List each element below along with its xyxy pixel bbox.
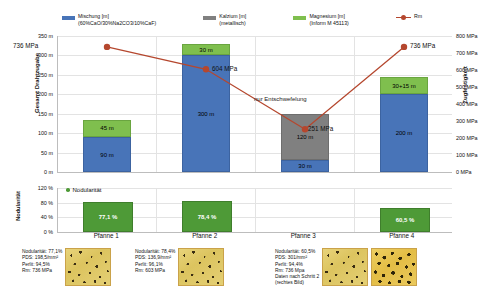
- nodularity-bar-pfanne-4: 60,5 %: [380, 208, 430, 232]
- wire-addition-chart: Gesamt Drahtzugabe Zugfestigkeit 350 m 3…: [0, 36, 500, 183]
- tick-0mpa: 0 MPa: [456, 169, 472, 175]
- category-axis: Pfanne 1 Pfanne 2 Pfanne 3 Pfanne 4: [57, 232, 451, 242]
- legend-item-rm: Rm: [396, 13, 422, 21]
- rm-label-pfanne-2: 604 MPa: [212, 65, 237, 72]
- tick-800mpa: 800 MPa: [456, 33, 478, 39]
- panel1-line-4: Rm: 736 MPa: [22, 268, 62, 274]
- panel-pfanne-4: Nodularität: 60,5% PDS: 301/mm² Perlit: …: [275, 248, 417, 304]
- rm-line-series: [58, 36, 452, 172]
- red-line-marker-icon: [396, 14, 411, 21]
- micrograph-image-pfanne-4-left: [322, 248, 368, 286]
- primary-axis-ticks: 350 m 300 m 250 m 200 m 150 m 100 m 50 m…: [14, 36, 56, 183]
- legend-label-rm: Rm: [414, 13, 422, 20]
- legend-item-magnesium: Magnesium [m] (Inform M 45113): [293, 13, 348, 27]
- micrograph-image-pfanne-2: [178, 248, 224, 286]
- plot-area-nodularity: 77,1 % 78,4 % 60,5 %: [57, 188, 452, 233]
- panel-pfanne-1: Nodularität: 77,1% PDS: 198,5/mm² Perlit…: [22, 248, 111, 304]
- gray-swatch-icon: [203, 16, 216, 20]
- panel-pfanne-2: Nodularität: 78,4% PDS: 136,9/mm² Perlit…: [135, 248, 224, 304]
- tick-0pct: 0 %: [44, 229, 53, 235]
- green-swatch-icon: [293, 16, 306, 20]
- micrograph-panels: Nodularität: 77,1% PDS: 198,5/mm² Perlit…: [22, 248, 492, 304]
- tick-300m: 300 m: [38, 52, 53, 58]
- blue-swatch-icon: [62, 16, 75, 20]
- nodularity-legend: Nodularität: [66, 187, 102, 193]
- tick-350m: 350 m: [38, 33, 53, 39]
- legend-sub-kalzium: (metallisch): [219, 20, 246, 27]
- tick-200mpa: 200 MPa: [456, 135, 478, 141]
- panel1-line-2: PDS: 198,5/mm²: [22, 255, 62, 261]
- tick-300mpa: 300 MPa: [456, 118, 478, 124]
- tick-40pct: 40 %: [41, 214, 53, 220]
- rm-label-pfanne-3: 251 MPa: [308, 125, 333, 132]
- nodularity-legend-label: Nodularität: [73, 187, 102, 193]
- tick-50m: 50 m: [41, 150, 53, 156]
- chart-legend: Mischung [m] (60%CaO/30%Na2CO3/10%CaF) K…: [62, 13, 422, 37]
- tick-80pct: 80 %: [41, 200, 53, 206]
- category-pfanne-3: Pfanne 3: [254, 232, 353, 242]
- category-pfanne-4: Pfanne 4: [353, 232, 452, 242]
- category-pfanne-1: Pfanne 1: [57, 232, 156, 242]
- tick-100mpa: 100 MPa: [456, 152, 478, 158]
- rm-label-pfanne-1: 736 MPa: [13, 42, 38, 49]
- legend-label-mischung: Mischung [m]: [78, 13, 109, 19]
- nodularity-bar-pfanne-1: 77,1 %: [83, 202, 133, 232]
- tick-150m: 150 m: [38, 111, 53, 117]
- tick-700mpa: 700 MPa: [456, 50, 478, 56]
- tick-100m: 100 m: [38, 130, 53, 136]
- micrograph-image-pfanne-4-right: [371, 248, 417, 286]
- annotation-nur-entschwefelung: nur Entschwefelung: [254, 96, 307, 102]
- secondary-axis-ticks: 800 MPa 700 MPa 600 MPa 500 MPa 400 MPa …: [452, 36, 496, 183]
- panel2-line-4: Rm: 603 MPa: [135, 268, 175, 274]
- legend-label-kalzium: Kalzium [m]: [219, 13, 246, 19]
- tick-500mpa: 500 MPa: [456, 84, 478, 90]
- legend-label-magnesium: Magnesium [m]: [309, 13, 344, 19]
- micrograph-image-pfanne-1: [65, 248, 111, 286]
- rm-label-pfanne-4: 736 MPa: [410, 42, 435, 49]
- legend-sub-mischung: (60%CaO/30%Na2CO3/10%CaF): [78, 20, 156, 27]
- tick-0m: 0 m: [44, 169, 53, 175]
- plot-area-primary: 45 m 90 m 30 m 300 m 120 m: [57, 36, 452, 173]
- legend-item-kalzium: Kalzium [m] (metallisch): [203, 13, 246, 27]
- tick-120pct: 120 %: [38, 185, 53, 191]
- chart-canvas: Mischung [m] (60%CaO/30%Na2CO3/10%CaF) K…: [0, 0, 500, 306]
- legend-item-mischung: Mischung [m] (60%CaO/30%Na2CO3/10%CaF): [62, 13, 156, 27]
- tick-200m: 200 m: [38, 91, 53, 97]
- category-pfanne-2: Pfanne 2: [156, 232, 255, 242]
- tick-400mpa: 400 MPa: [456, 101, 478, 107]
- nodularity-bar-pfanne-2: 78,4 %: [182, 201, 232, 232]
- panel2-line-2: PDS: 136,9/mm²: [135, 255, 175, 261]
- green-dot-icon: [66, 188, 70, 192]
- legend-sub-magnesium: (Inform M 45113): [309, 20, 348, 27]
- panel4-line-6: (rechtes Bild): [275, 280, 319, 286]
- tick-250m: 250 m: [38, 72, 53, 78]
- tick-600mpa: 600 MPa: [456, 67, 478, 73]
- nodularity-axis-ticks: 120 % 80 % 40 % 0 %: [14, 185, 56, 233]
